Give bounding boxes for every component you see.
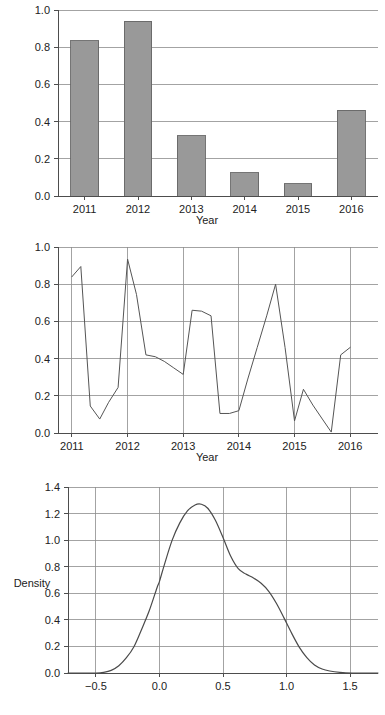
line-xtick-label: 2012 bbox=[115, 440, 139, 452]
line-xtick-label: 2014 bbox=[227, 440, 251, 452]
density-xtick-label: 1.5 bbox=[342, 680, 357, 692]
density-chart-yaxis-title: Density bbox=[14, 577, 51, 589]
line-chart-gridlines bbox=[58, 247, 378, 433]
bar-chart-xtick-labels: 201120122013201420152016 bbox=[73, 203, 364, 215]
line-ytick-label: 0.6 bbox=[35, 315, 50, 327]
bar-chart-bar bbox=[177, 136, 205, 196]
bar-ytick-label: 0.0 bbox=[35, 190, 50, 202]
line-chart-svg: 0.00.20.40.60.81.0 201120122013201420152… bbox=[0, 235, 385, 475]
line-xtick-label: 2015 bbox=[282, 440, 306, 452]
line-chart-ytick-labels: 0.00.20.40.60.81.0 bbox=[35, 241, 50, 439]
density-ytick-label: 0.4 bbox=[45, 614, 60, 626]
density-xtick-label: 0.0 bbox=[152, 680, 167, 692]
bar-chart-bar bbox=[284, 184, 312, 196]
density-ytick-label: 0.6 bbox=[45, 587, 60, 599]
line-ytick-label: 0.0 bbox=[35, 427, 50, 439]
bar-xtick-label: 2016 bbox=[339, 203, 363, 215]
bar-ytick-label: 1.0 bbox=[35, 4, 50, 16]
line-xtick-label: 2013 bbox=[171, 440, 195, 452]
line-ytick-label: 0.4 bbox=[35, 353, 50, 365]
line-ytick-label: 0.2 bbox=[35, 390, 50, 402]
density-xtick-label: −0.5 bbox=[85, 680, 107, 692]
bar-chart-ytick-labels: 0.00.20.40.60.81.0 bbox=[35, 4, 50, 202]
bar-chart-xaxis-title: Year bbox=[196, 214, 219, 226]
bar-chart-figure: 0.00.20.40.60.81.0 201120122013201420152… bbox=[0, 0, 385, 235]
bar-chart-bar bbox=[337, 110, 365, 196]
line-chart-xaxis-title: Year bbox=[196, 451, 219, 463]
line-xtick-label: 2016 bbox=[338, 440, 362, 452]
density-ytick-label: 0.8 bbox=[45, 561, 60, 573]
bar-ytick-label: 0.6 bbox=[35, 78, 50, 90]
bar-chart-bar bbox=[231, 173, 259, 196]
line-ytick-label: 0.8 bbox=[35, 278, 50, 290]
bar-chart-axes bbox=[54, 10, 378, 200]
line-ytick-label: 1.0 bbox=[35, 241, 50, 253]
density-chart-axes bbox=[64, 487, 378, 677]
bar-chart-bar bbox=[71, 41, 99, 196]
density-chart-gridlines bbox=[68, 487, 378, 673]
line-xtick-label: 2011 bbox=[60, 440, 84, 452]
bar-chart-bar bbox=[124, 21, 152, 196]
density-xtick-label: 0.5 bbox=[215, 680, 230, 692]
density-chart-xtick-labels: −0.50.00.51.01.5 bbox=[85, 680, 358, 692]
density-xtick-label: 1.0 bbox=[279, 680, 294, 692]
density-ytick-label: 1.2 bbox=[45, 508, 60, 520]
density-chart-figure: 0.00.20.40.60.81.01.21.4 −0.50.00.51.01.… bbox=[0, 475, 385, 715]
density-ytick-label: 1.4 bbox=[45, 481, 60, 493]
line-chart-axes bbox=[54, 247, 378, 437]
bar-chart-gridlines bbox=[58, 10, 378, 159]
bar-ytick-label: 0.4 bbox=[35, 116, 50, 128]
bar-xtick-label: 2011 bbox=[73, 203, 97, 215]
line-chart-series bbox=[72, 259, 350, 432]
density-ytick-label: 0.0 bbox=[45, 667, 60, 679]
bar-xtick-label: 2014 bbox=[232, 203, 256, 215]
density-chart-svg: 0.00.20.40.60.81.01.21.4 −0.50.00.51.01.… bbox=[0, 475, 385, 715]
bar-chart-svg: 0.00.20.40.60.81.0 201120122013201420152… bbox=[0, 0, 385, 235]
density-ytick-label: 0.2 bbox=[45, 640, 60, 652]
bar-xtick-label: 2015 bbox=[286, 203, 310, 215]
bar-ytick-label: 0.2 bbox=[35, 153, 50, 165]
density-ytick-label: 1.0 bbox=[45, 534, 60, 546]
line-chart-figure: 0.00.20.40.60.81.0 201120122013201420152… bbox=[0, 235, 385, 475]
bar-xtick-label: 2012 bbox=[126, 203, 150, 215]
bar-ytick-label: 0.8 bbox=[35, 41, 50, 53]
